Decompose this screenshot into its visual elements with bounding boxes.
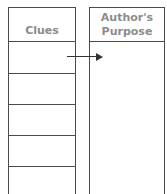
authors-purpose-header-line2: Purpose — [101, 25, 153, 39]
clues-column: Clues — [8, 7, 76, 194]
clues-header: Clues — [9, 8, 75, 42]
authors-purpose-header: Author's Purpose — [90, 8, 164, 42]
row-divider — [9, 135, 75, 136]
clues-header-label: Clues — [25, 24, 59, 38]
authors-purpose-column: Author's Purpose — [89, 7, 165, 194]
row-divider — [9, 166, 75, 167]
authors-purpose-header-line1: Author's — [101, 11, 153, 25]
row-divider — [9, 104, 75, 105]
arrow-right-icon — [96, 53, 103, 61]
arrow-line — [67, 56, 97, 57]
row-divider — [9, 73, 75, 74]
